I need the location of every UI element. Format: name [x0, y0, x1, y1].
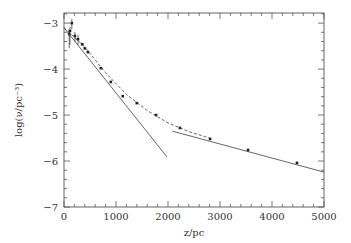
data-point	[110, 81, 113, 84]
x-tick-label: 1000	[103, 211, 128, 222]
solid-fit-line	[64, 28, 167, 157]
data-point	[296, 162, 299, 165]
y-tick-label: −5	[43, 110, 58, 121]
y-tick-label: −6	[43, 156, 58, 167]
data-point	[136, 102, 139, 105]
x-tick-label: 4000	[259, 211, 284, 222]
data-point	[209, 138, 212, 141]
fit-lines	[64, 28, 324, 172]
data-point	[87, 51, 90, 54]
y-tick-label: −4	[43, 64, 58, 75]
data-point	[155, 114, 158, 117]
data-point	[247, 149, 250, 152]
plot-border	[64, 13, 324, 207]
data-point	[100, 67, 103, 70]
y-tick-label: −3	[43, 18, 58, 29]
x-tick-label: 3000	[207, 211, 232, 222]
data-point	[69, 30, 72, 33]
y-tick-label: −7	[43, 202, 58, 213]
x-axis-label: z/pc	[184, 227, 205, 238]
data-point	[121, 95, 124, 98]
data-point	[71, 22, 74, 25]
data-point	[84, 47, 87, 50]
data-point	[81, 43, 84, 46]
axis-tick-labels: 010002000300040005000−3−4−5−6−7	[43, 18, 336, 222]
data-points	[68, 19, 298, 164]
x-tick-label: 5000	[311, 211, 336, 222]
x-tick-label: 2000	[155, 211, 180, 222]
solid-fit-line	[172, 131, 324, 172]
x-tick-label: 0	[61, 211, 67, 222]
axis-ticks	[64, 13, 324, 207]
plot-frame	[64, 13, 324, 207]
chart: 010002000300040005000−3−4−5−6−7 z/pc log…	[0, 0, 351, 243]
data-point	[77, 38, 80, 41]
data-point	[74, 35, 77, 38]
data-point	[179, 127, 182, 130]
dashed-fit-curve	[64, 28, 210, 138]
y-axis-label: log(ν/pc⁻³)	[13, 83, 24, 137]
